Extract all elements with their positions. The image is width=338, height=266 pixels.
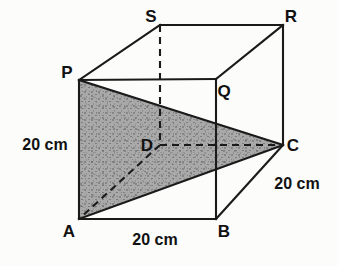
vertex-label-c: C <box>287 137 299 154</box>
edge-P-S <box>79 25 160 80</box>
shaded-triangle-texture <box>79 80 283 219</box>
dimension-right-depth: 20 cm <box>274 176 319 192</box>
vertex-label-r: R <box>285 8 297 25</box>
vertex-label-s: S <box>145 8 156 25</box>
cube-diagram-canvas <box>0 0 338 266</box>
geometry-figure: PQRSABCD 20 cm20 cm20 cm <box>0 0 338 266</box>
vertex-label-p: P <box>61 64 72 81</box>
vertex-label-b: B <box>218 223 230 240</box>
vertex-label-q: Q <box>217 83 230 100</box>
edge-Q-R <box>216 25 283 79</box>
dimension-bottom-width: 20 cm <box>132 232 177 248</box>
vertex-label-d: D <box>141 137 153 154</box>
edge-P-Q <box>79 79 216 80</box>
vertex-label-a: A <box>63 223 75 240</box>
shaded-triangle-PAC <box>79 80 283 219</box>
dimension-left-height: 20 cm <box>22 137 67 153</box>
